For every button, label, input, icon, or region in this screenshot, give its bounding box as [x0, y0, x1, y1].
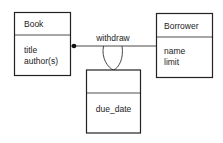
class-book-name: Book: [24, 19, 44, 29]
link-attribute-loop: [103, 46, 122, 70]
class-borrower: Borrower name limit: [157, 14, 213, 78]
class-link-box: [87, 70, 141, 133]
multiplicity-many-dot: [72, 44, 77, 49]
class-link-attr-due-date: due_date: [96, 104, 132, 114]
class-borrower-attr-limit: limit: [164, 57, 180, 67]
class-book-attr-authors: author(s): [24, 56, 58, 66]
class-diagram: Book title author(s) Borrower name limit…: [0, 0, 223, 143]
class-book-attr-title: title: [24, 45, 38, 55]
association-withdraw: withdraw: [71, 33, 157, 70]
class-link-attribute: due_date: [87, 70, 141, 133]
association-label: withdraw: [95, 33, 130, 43]
class-book: Book title author(s): [15, 13, 71, 76]
class-borrower-attr-name: name: [164, 46, 186, 56]
class-borrower-name: Borrower: [164, 21, 199, 31]
